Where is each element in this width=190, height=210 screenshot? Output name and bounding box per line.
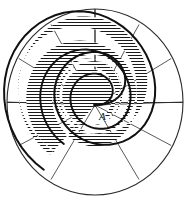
- figure-canvas: A: [0, 0, 190, 210]
- spiral-diagram: A: [0, 0, 190, 210]
- center-point-dot: [93, 103, 97, 107]
- center-point-label: A: [98, 110, 106, 122]
